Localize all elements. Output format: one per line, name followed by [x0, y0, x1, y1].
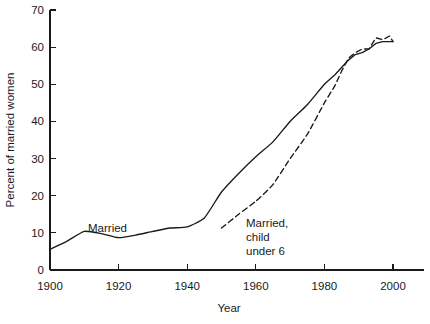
- x-tick-label-1960: 1960: [243, 280, 269, 292]
- y-tick-label-0: 0: [38, 264, 44, 276]
- y-tick-label-40: 40: [31, 115, 44, 127]
- y-tick-label-30: 30: [31, 153, 44, 165]
- y-tick-label-20: 20: [31, 190, 44, 202]
- x-axis-ticks: [50, 264, 393, 270]
- series-annotation-married-child-under-6: Married, child under 6: [246, 217, 288, 257]
- y-tick-label-10: 10: [31, 227, 44, 239]
- annotation-line-2: child: [246, 231, 270, 243]
- chart-container: 0 10 20 30 40 50 60 70 1900 1920 1940 19…: [0, 0, 430, 324]
- annotation-line-1: Married,: [246, 217, 288, 229]
- x-tick-label-1940: 1940: [174, 280, 200, 292]
- y-tick-label-70: 70: [31, 4, 44, 16]
- x-axis-tick-labels: 1900 1920 1940 1960 1980 2000: [37, 280, 406, 292]
- series-line-married-child-under-6: [222, 36, 394, 228]
- x-tick-label-2000: 2000: [380, 280, 406, 292]
- x-tick-label-1920: 1920: [106, 280, 132, 292]
- y-axis-ticks: [50, 10, 56, 270]
- y-axis-title: Percent of married women: [4, 73, 16, 208]
- x-tick-label-1900: 1900: [37, 280, 63, 292]
- y-tick-label-60: 60: [31, 41, 44, 53]
- x-tick-label-1980: 1980: [312, 280, 338, 292]
- line-chart: 0 10 20 30 40 50 60 70 1900 1920 1940 19…: [0, 0, 430, 324]
- annotation-line-3: under 6: [246, 245, 285, 257]
- y-tick-label-50: 50: [31, 78, 44, 90]
- y-axis-tick-labels: 0 10 20 30 40 50 60 70: [31, 4, 44, 276]
- series-annotation-married: Married: [88, 222, 127, 234]
- x-axis-title: Year: [217, 302, 240, 314]
